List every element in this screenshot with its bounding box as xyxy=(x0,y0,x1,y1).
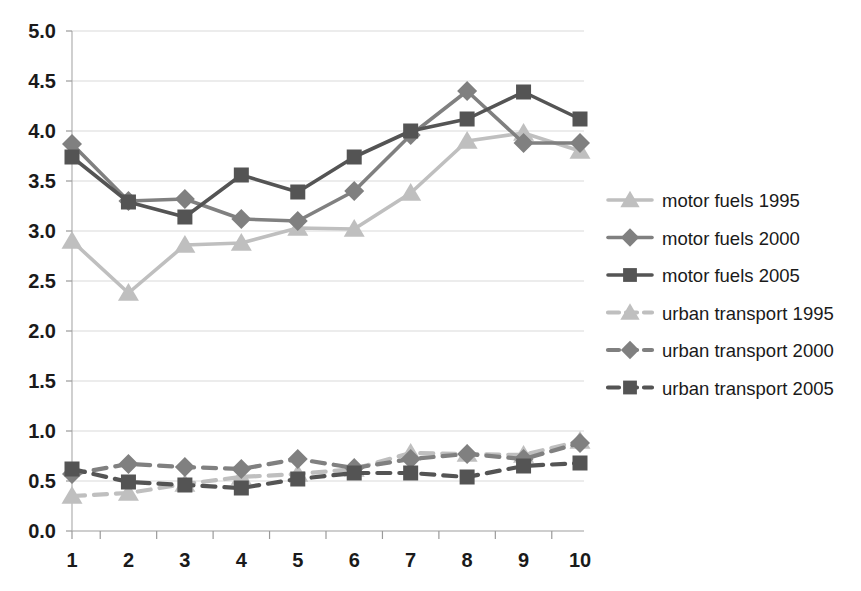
data-point-marker xyxy=(121,195,136,210)
legend-item-label: urban transport 1995 xyxy=(662,303,834,324)
data-point-marker xyxy=(177,210,192,225)
data-point-marker xyxy=(118,454,138,474)
x-axis-tick-label: 7 xyxy=(405,549,416,571)
data-point-marker xyxy=(516,459,531,474)
data-point-marker xyxy=(516,85,531,100)
data-point-marker xyxy=(290,185,305,200)
x-axis-tick-label: 6 xyxy=(349,549,360,571)
y-axis-tick-label: 0.5 xyxy=(28,470,56,492)
legend-item-urban-transport-1995[interactable]: urban transport 1995 xyxy=(608,303,834,324)
x-axis-tick-label: 3 xyxy=(179,549,190,571)
chart-legend: motor fuels 1995motor fuels 2000motor fu… xyxy=(608,190,834,399)
series-motor-fuels-2000 xyxy=(62,81,590,231)
legend-item-label: urban transport 2000 xyxy=(662,340,834,361)
legend-item-motor-fuels-2005[interactable]: motor fuels 2005 xyxy=(608,265,800,286)
legend-item-label: motor fuels 1995 xyxy=(662,190,800,211)
series-line xyxy=(72,133,580,293)
data-point-marker xyxy=(290,472,305,487)
data-point-marker xyxy=(62,231,83,249)
data-point-marker xyxy=(573,112,588,127)
legend-item-label: motor fuels 2005 xyxy=(662,265,800,286)
x-axis-tick-label: 1 xyxy=(66,549,77,571)
data-point-marker xyxy=(234,168,249,183)
legend-swatch-marker-diamond-icon xyxy=(621,228,639,246)
data-point-marker xyxy=(175,457,195,477)
series-line xyxy=(72,443,580,474)
y-axis-tick-label: 1.5 xyxy=(28,370,56,392)
line-chart: 0.00.51.01.52.02.53.03.54.04.55.0 123456… xyxy=(0,0,861,591)
plot-series xyxy=(62,81,591,504)
y-axis-tick-label: 2.5 xyxy=(28,270,56,292)
x-axis-tick-labels: 12345678910 xyxy=(66,549,591,571)
data-point-marker xyxy=(573,456,588,471)
data-point-marker xyxy=(234,481,249,496)
y-axis-tick-label: 3.5 xyxy=(28,170,56,192)
y-axis-tick-label: 2.0 xyxy=(28,320,56,342)
chart-canvas: 0.00.51.01.52.02.53.03.54.04.55.0 123456… xyxy=(0,0,861,591)
data-point-marker xyxy=(460,470,475,485)
data-point-marker xyxy=(460,112,475,127)
data-point-marker xyxy=(231,209,251,229)
y-axis-tick-label: 5.0 xyxy=(28,20,56,42)
series-line xyxy=(72,91,580,221)
data-point-marker xyxy=(65,150,80,165)
legend-item-label: motor fuels 2000 xyxy=(662,228,800,249)
data-point-marker xyxy=(403,466,418,481)
data-point-marker xyxy=(347,150,362,165)
y-axis-tick-label: 3.0 xyxy=(28,220,56,242)
x-axis-tick-label: 8 xyxy=(462,549,473,571)
y-axis-tick-label: 1.0 xyxy=(28,420,56,442)
legend-item-urban-transport-2000[interactable]: urban transport 2000 xyxy=(608,340,834,361)
data-point-marker xyxy=(175,189,195,209)
legend-item-urban-transport-2005[interactable]: urban transport 2005 xyxy=(608,378,834,399)
series-line xyxy=(72,92,580,217)
data-point-marker xyxy=(121,475,136,490)
x-axis-tick-label: 10 xyxy=(569,549,591,571)
data-point-marker xyxy=(347,466,362,481)
y-axis-tick-label: 0.0 xyxy=(28,520,56,542)
legend-swatch-marker-diamond-icon xyxy=(621,341,639,359)
data-point-marker xyxy=(570,433,590,453)
data-point-marker xyxy=(288,449,308,469)
x-axis-tick-label: 5 xyxy=(292,549,303,571)
data-point-marker xyxy=(177,478,192,493)
legend-item-motor-fuels-1995[interactable]: motor fuels 1995 xyxy=(608,190,800,211)
y-axis-tick-labels: 0.00.51.01.52.02.53.03.54.04.55.0 xyxy=(28,20,56,542)
series-line xyxy=(72,441,580,496)
x-axis-tick-label: 9 xyxy=(518,549,529,571)
y-axis-tick-label: 4.5 xyxy=(28,70,56,92)
y-axis-tick-label: 4.0 xyxy=(28,120,56,142)
legend-swatch-marker-square-icon xyxy=(623,381,637,395)
x-axis-tick-label: 2 xyxy=(123,549,134,571)
series-motor-fuels-1995 xyxy=(62,123,591,301)
x-axis-tick-label: 4 xyxy=(236,549,248,571)
legend-item-motor-fuels-2000[interactable]: motor fuels 2000 xyxy=(608,228,800,249)
legend-item-label: urban transport 2005 xyxy=(662,378,834,399)
data-point-marker xyxy=(403,124,418,139)
series-motor-fuels-2005 xyxy=(65,85,588,225)
data-point-marker xyxy=(65,462,80,477)
legend-swatch-marker-square-icon xyxy=(623,268,637,282)
